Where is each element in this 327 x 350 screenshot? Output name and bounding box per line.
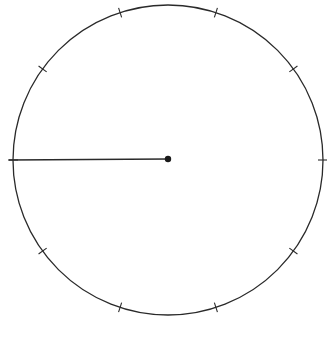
tick-mark [39, 66, 47, 72]
radius-line [9, 159, 168, 160]
tick-mark [289, 66, 297, 72]
tick-mark [39, 248, 47, 254]
circle-diagram [0, 0, 327, 350]
center-point [165, 156, 171, 162]
tick-mark [289, 248, 297, 254]
